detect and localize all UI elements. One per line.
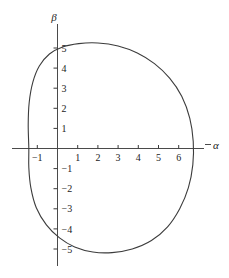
alpha-tick-labels: −1123456 — [32, 152, 181, 163]
tick-label-y: 2 — [62, 103, 67, 114]
tick-label-y: −1 — [62, 163, 73, 174]
tick-label-y: −3 — [62, 203, 73, 214]
plot-figure: −1123456 54321−1−2−3−4−5 α β — [0, 0, 229, 278]
tick-label-x: 6 — [176, 152, 181, 163]
tick-label-x: 2 — [95, 152, 100, 163]
tick-label-x: 4 — [136, 152, 141, 163]
tick-label-x: −1 — [32, 152, 43, 163]
beta-axis-label: β — [50, 11, 57, 23]
tick-label-x: 3 — [116, 152, 121, 163]
tick-label-y: 3 — [62, 83, 67, 94]
plot-canvas: −1123456 54321−1−2−3−4−5 α β — [0, 0, 229, 278]
axes-group — [12, 24, 204, 266]
tick-label-x: 5 — [156, 152, 161, 163]
alpha-axis-ticks — [37, 145, 178, 149]
oval-curve — [28, 43, 193, 253]
tick-label-y: 4 — [62, 63, 67, 74]
tick-label-y: −4 — [62, 224, 73, 235]
tick-label-x: 1 — [75, 152, 80, 163]
tick-label-y: 5 — [62, 43, 67, 54]
alpha-axis-label: α — [213, 139, 219, 151]
tick-label-y: −2 — [62, 183, 73, 194]
tick-label-y: 1 — [62, 123, 67, 134]
axis-title-group: α β — [50, 11, 219, 151]
tick-label-y: −5 — [62, 244, 73, 255]
